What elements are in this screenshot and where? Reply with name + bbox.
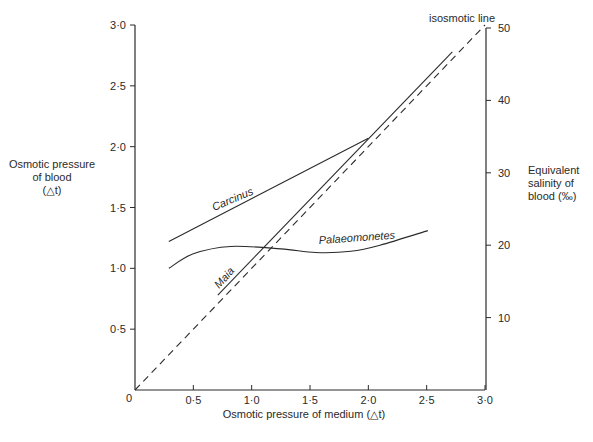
y-tick-label: 3·0 [110,19,126,31]
y2-axis-title-line-3: blood (‰) [528,190,576,202]
y2-axis-title-line-1: Equivalent [528,164,579,176]
maia-label: Maia [212,265,237,291]
y2-tick-label: 10 [498,312,510,324]
x-ticks: 0·51·01·52·02·53·0 [185,385,493,406]
isosmotic-line-label: isosmotic line [429,12,495,24]
x-tick-label: 0·5 [185,394,201,406]
x-tick-label: 2·0 [360,394,376,406]
y-tick-label: 2·5 [110,80,126,92]
y-ticks-left: 0·51·01·52·02·53·0 [110,19,135,335]
x-tick-label: 1·5 [302,394,318,406]
y2-tick-label: 40 [498,94,510,106]
y-tick-label: 1·5 [110,202,126,214]
origin-label: 0 [126,392,132,404]
y-tick-label: 0·5 [110,323,126,335]
y2-axis-title-line-2: salinity of [528,177,575,189]
y-axis-title-line-3: (△t) [43,184,62,196]
y2-tick-label: 50 [498,22,510,34]
y-axis-title-line-1: Osmotic pressure [9,158,95,170]
y2-tick-label: 30 [498,167,510,179]
carcinus-line [169,138,369,241]
x-tick-label: 1·0 [244,394,260,406]
x-axis-title: Osmotic pressure of medium (△t) [223,408,386,420]
palaeomonetes-label: Palaeomonetes [318,229,396,246]
y-axis-title-line-2: of blood [32,171,71,183]
x-tick-label: 3·0 [477,394,493,406]
y2-tick-label: 20 [498,239,510,251]
isosmotic-line [135,25,485,390]
maia-line [218,52,453,295]
y-tick-label: 2·0 [110,141,126,153]
y-ticks-right: 1020304050 [486,22,510,324]
x-tick-label: 2·5 [419,394,435,406]
y-tick-label: 1·0 [110,262,126,274]
chart-canvas: 0·51·01·52·02·53·0 0·51·01·52·02·53·0 10… [0,0,593,442]
